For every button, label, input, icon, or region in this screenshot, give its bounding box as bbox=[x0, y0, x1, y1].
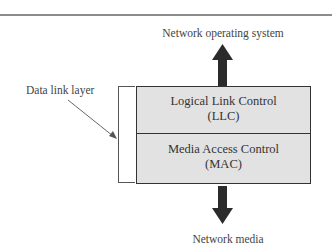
data-link-layer-label: Data link layer bbox=[26, 84, 94, 96]
mac-abbr: (MAC) bbox=[137, 157, 310, 172]
pointer-arrowhead-icon bbox=[109, 131, 117, 139]
llc-layer: Logical Link Control (LLC) bbox=[137, 87, 310, 134]
data-link-stack: Logical Link Control (LLC) Media Access … bbox=[136, 86, 311, 184]
llc-name: Logical Link Control bbox=[137, 94, 310, 109]
llc-abbr: (LLC) bbox=[137, 109, 310, 124]
data-link-bracket bbox=[118, 86, 135, 183]
down-arrow-icon bbox=[212, 186, 233, 224]
pointer-line bbox=[68, 100, 113, 136]
network-media-label: Network media bbox=[180, 233, 276, 245]
up-arrow-icon bbox=[212, 44, 233, 86]
mac-name: Media Access Control bbox=[137, 142, 310, 157]
mac-layer: Media Access Control (MAC) bbox=[137, 135, 310, 182]
